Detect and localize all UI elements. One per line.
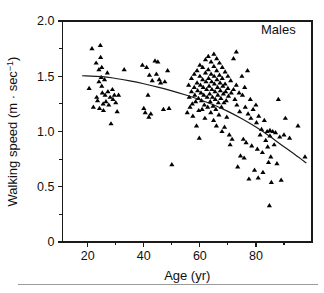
data-point-marker bbox=[99, 65, 104, 69]
data-point-marker bbox=[227, 132, 232, 136]
data-point-marker bbox=[279, 178, 284, 182]
data-point-marker bbox=[91, 105, 96, 109]
data-point-marker bbox=[246, 176, 251, 180]
scatter-plot-canvas: 00.51.01.52.020406080Age (yr)Walking spe… bbox=[0, 0, 324, 293]
data-point-marker bbox=[237, 109, 242, 113]
data-point-marker bbox=[147, 73, 152, 77]
data-point-marker bbox=[225, 74, 230, 78]
data-point-marker bbox=[249, 143, 254, 147]
data-point-marker bbox=[103, 99, 108, 103]
data-point-marker bbox=[266, 160, 271, 164]
data-point-marker bbox=[219, 129, 224, 133]
data-point-marker bbox=[245, 111, 250, 115]
data-point-marker bbox=[211, 64, 216, 68]
data-point-marker bbox=[217, 60, 222, 64]
data-point-marker bbox=[239, 74, 244, 78]
data-point-marker bbox=[277, 134, 282, 138]
data-point-marker bbox=[295, 123, 300, 127]
data-point-marker bbox=[144, 65, 149, 69]
data-point-marker bbox=[256, 175, 261, 179]
data-point-marker bbox=[245, 68, 250, 72]
y-axis-title: Walking speed (m · sec−1) bbox=[5, 57, 20, 207]
data-point-marker bbox=[274, 161, 279, 165]
data-point-marker bbox=[223, 81, 228, 85]
data-point-marker bbox=[202, 102, 207, 106]
data-point-marker bbox=[238, 153, 243, 157]
plot-annotation-males: Males bbox=[261, 22, 296, 37]
data-point-marker bbox=[230, 137, 235, 141]
data-point-marker bbox=[207, 84, 212, 88]
data-point-marker bbox=[186, 82, 191, 86]
y-tick-label: 2.0 bbox=[37, 14, 54, 28]
data-point-marker bbox=[87, 86, 92, 90]
data-point-marker bbox=[217, 73, 222, 77]
data-point-marker bbox=[122, 67, 127, 71]
data-point-marker bbox=[241, 137, 246, 141]
axis-ticks-layer bbox=[58, 21, 284, 247]
data-point-marker bbox=[255, 147, 260, 151]
data-point-marker bbox=[262, 118, 267, 122]
data-point-marker bbox=[98, 43, 103, 47]
data-point-marker bbox=[161, 107, 166, 111]
data-point-marker bbox=[214, 123, 219, 127]
data-point-marker bbox=[242, 155, 247, 159]
data-point-marker bbox=[105, 70, 110, 74]
data-point-marker bbox=[232, 97, 237, 101]
x-tick-label: 40 bbox=[137, 249, 151, 263]
data-point-marker bbox=[225, 86, 230, 90]
data-point-marker bbox=[141, 106, 146, 110]
x-axis-title: Age (yr) bbox=[164, 268, 210, 283]
data-point-marker bbox=[251, 107, 256, 111]
data-point-marker bbox=[94, 60, 99, 64]
data-point-marker bbox=[197, 136, 202, 140]
data-point-marker bbox=[211, 52, 216, 56]
data-point-marker bbox=[208, 71, 213, 75]
data-point-marker bbox=[234, 49, 239, 53]
data-point-marker bbox=[302, 154, 307, 158]
data-point-marker bbox=[197, 63, 202, 67]
data-point-marker bbox=[150, 78, 155, 82]
data-point-marker bbox=[231, 87, 236, 91]
data-point-marker bbox=[108, 95, 113, 99]
axis-frame bbox=[63, 21, 313, 242]
data-point-marker bbox=[206, 67, 211, 71]
data-point-marker bbox=[276, 97, 281, 101]
data-point-marker bbox=[194, 80, 199, 84]
data-point-marker bbox=[260, 170, 265, 174]
y-tick-label: 1.0 bbox=[37, 125, 54, 139]
x-tick-label: 80 bbox=[249, 249, 263, 263]
data-point-marker bbox=[268, 154, 273, 158]
data-point-marker bbox=[281, 132, 286, 136]
y-tick-label: 1.5 bbox=[37, 70, 54, 84]
data-point-marker bbox=[89, 46, 94, 50]
axis-labels-layer: 00.51.01.52.020406080Age (yr)Walking spe… bbox=[5, 14, 296, 283]
data-point-marker bbox=[214, 68, 219, 72]
data-point-marker bbox=[211, 118, 216, 122]
data-point-marker bbox=[252, 168, 257, 172]
svg-text:Walking speed (m · sec−1): Walking speed (m · sec−1) bbox=[5, 57, 20, 207]
data-point-marker bbox=[101, 108, 106, 112]
data-point-marker bbox=[223, 69, 228, 73]
data-point-marker bbox=[206, 76, 211, 80]
data-point-marker bbox=[166, 106, 171, 110]
y-tick-label: 0.5 bbox=[37, 180, 54, 194]
data-point-marker bbox=[157, 77, 162, 81]
data-point-marker bbox=[228, 142, 233, 146]
y-tick-label: 0 bbox=[48, 235, 55, 249]
data-point-marker bbox=[197, 74, 202, 78]
data-point-marker bbox=[287, 136, 292, 140]
data-point-marker bbox=[112, 92, 117, 96]
data-point-marker bbox=[220, 65, 225, 69]
data-point-marker bbox=[224, 115, 229, 119]
data-point-marker bbox=[194, 123, 199, 127]
data-point-marker bbox=[216, 112, 221, 116]
data-point-marker bbox=[99, 84, 104, 88]
data-point-marker bbox=[242, 85, 247, 89]
data-point-marker bbox=[190, 113, 195, 117]
data-point-marker bbox=[207, 91, 212, 95]
x-tick-label: 60 bbox=[193, 249, 207, 263]
data-point-marker bbox=[185, 110, 190, 114]
data-point-marker bbox=[263, 138, 268, 142]
data-point-marker bbox=[200, 107, 205, 111]
data-point-marker bbox=[214, 56, 219, 60]
